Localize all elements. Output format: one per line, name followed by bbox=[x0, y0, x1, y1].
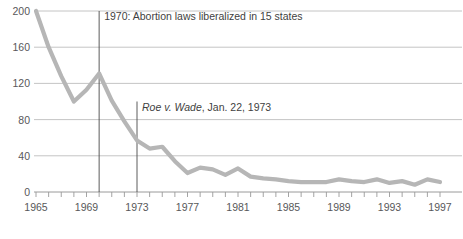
y-axis-tick-label: 160 bbox=[12, 41, 30, 53]
line-chart: 04080120160200 1965196919731977198119851… bbox=[0, 0, 463, 239]
annotation-roe-v-wade-label-italic: Roe v. Wade bbox=[142, 101, 202, 113]
y-axis-tick-labels: 04080120160200 bbox=[12, 5, 30, 198]
gridlines bbox=[34, 11, 462, 156]
y-axis-tick-label: 40 bbox=[18, 150, 30, 162]
annotation-1970-label: 1970: Abortion laws liberalized in 15 st… bbox=[104, 10, 302, 22]
x-axis-tick-label: 1965 bbox=[24, 201, 48, 213]
x-axis-tick-labels: 196519691973197719811985198919931997 bbox=[24, 201, 452, 213]
x-axis-tick-label: 1993 bbox=[378, 201, 402, 213]
x-axis-tick-label: 1985 bbox=[277, 201, 301, 213]
x-axis bbox=[34, 192, 462, 197]
x-axis-tick-label: 1973 bbox=[125, 201, 149, 213]
x-axis-tick-label: 1977 bbox=[176, 201, 200, 213]
x-axis-tick-label: 1981 bbox=[226, 201, 250, 213]
chart-canvas: 04080120160200 1965196919731977198119851… bbox=[0, 0, 463, 239]
x-axis-tick-label: 1969 bbox=[75, 201, 99, 213]
y-axis-tick-label: 120 bbox=[12, 77, 30, 89]
annotation-roe-v-wade-label: Roe v. Wade, Jan. 22, 1973 bbox=[142, 101, 271, 113]
x-axis-tick-label: 1997 bbox=[428, 201, 452, 213]
x-axis-tick-label: 1989 bbox=[327, 201, 351, 213]
annotations: 1970: Abortion laws liberalized in 15 st… bbox=[99, 10, 302, 192]
data-series bbox=[36, 11, 440, 185]
y-axis-tick-label: 0 bbox=[24, 186, 30, 198]
y-axis-tick-label: 200 bbox=[12, 5, 30, 17]
series-line bbox=[36, 11, 440, 185]
y-axis-tick-label: 80 bbox=[18, 114, 30, 126]
